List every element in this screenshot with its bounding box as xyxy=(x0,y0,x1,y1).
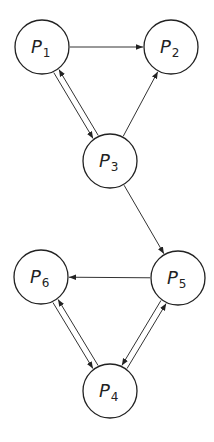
edge-line xyxy=(54,73,93,139)
node-p1: P1 xyxy=(15,20,69,74)
graph-svg: P1P2P3P5P6P4 xyxy=(0,0,214,442)
edge-line xyxy=(53,303,93,369)
edge-p4-to-p5 xyxy=(127,304,166,369)
edge-line xyxy=(59,70,98,136)
edge-line xyxy=(124,185,164,254)
graph-canvas: P1P2P3P5P6P4 xyxy=(0,0,214,442)
edge-p3-to-p2 xyxy=(123,72,158,137)
edge-line xyxy=(123,72,158,137)
edge-line xyxy=(127,304,166,369)
node-p3: P3 xyxy=(83,134,137,188)
edge-p1-to-p3 xyxy=(54,73,93,139)
edges-layer xyxy=(53,47,166,369)
edge-line xyxy=(122,300,161,365)
edge-p5-to-p4 xyxy=(122,300,161,365)
node-p4: P4 xyxy=(83,364,137,418)
edge-p4-to-p6 xyxy=(58,299,98,365)
nodes-layer: P1P2P3P5P6P4 xyxy=(14,20,205,418)
edge-p5-to-p6 xyxy=(69,277,150,278)
node-p5: P5 xyxy=(151,251,205,305)
edge-line xyxy=(69,277,150,278)
edge-p3-to-p5 xyxy=(124,185,164,254)
edge-line xyxy=(58,299,98,365)
edge-p3-to-p1 xyxy=(59,70,98,136)
node-p2: P2 xyxy=(144,20,198,74)
node-p6: P6 xyxy=(14,250,68,304)
edge-p6-to-p4 xyxy=(53,303,93,369)
